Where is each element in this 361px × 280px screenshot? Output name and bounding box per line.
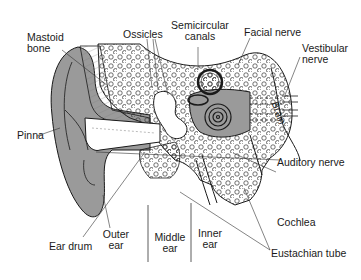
label-inner-ear: Inner ear <box>196 228 224 250</box>
label-middle-ear: Middle ear <box>151 232 189 254</box>
label-pinna: Pinna <box>17 130 44 141</box>
label-eustachian-tube: Eustachian tube <box>271 248 346 259</box>
label-semicircular-line2: canals <box>168 31 232 42</box>
label-middle-line2: ear <box>151 243 189 254</box>
label-semicircular-canals: Semicircular canals <box>168 20 232 42</box>
label-mastoid-line2: bone <box>27 43 64 54</box>
label-facial-nerve: Facial nerve <box>244 27 301 38</box>
label-cochlea: Cochlea <box>277 217 316 228</box>
label-ear-drum: Ear drum <box>49 241 92 252</box>
label-mastoid-bone: Mastoid bone <box>27 32 64 54</box>
label-outer-line2: ear <box>100 240 132 251</box>
label-vestibular-line2: nerve <box>302 54 348 65</box>
label-inner-line2: ear <box>196 239 224 250</box>
label-ossicles: Ossicles <box>123 29 163 40</box>
label-auditory-nerve: Auditory nerve <box>277 157 345 168</box>
label-outer-ear: Outer ear <box>100 229 132 251</box>
label-vestibular-nerve: Vestibular nerve <box>302 43 348 65</box>
